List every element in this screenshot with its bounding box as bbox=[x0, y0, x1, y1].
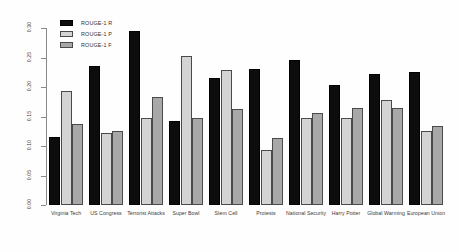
bar-r bbox=[369, 74, 380, 205]
bar-p bbox=[101, 133, 112, 205]
bar-group bbox=[129, 18, 163, 205]
y-axis-tick-label: 0.15 bbox=[26, 107, 32, 125]
x-axis-label: US Congress bbox=[90, 210, 121, 216]
bar-group bbox=[369, 18, 403, 205]
y-axis-tick-label: 0.20 bbox=[26, 77, 32, 95]
bar-p bbox=[341, 118, 352, 205]
x-axis-label: Super Bowl bbox=[172, 210, 199, 216]
bar-p bbox=[261, 150, 272, 205]
legend-swatch-f bbox=[60, 42, 73, 48]
bar-p bbox=[61, 91, 72, 205]
bar-r bbox=[329, 85, 340, 205]
y-axis-tick-label: 0.05 bbox=[26, 166, 32, 184]
x-axis-label: Virginia Tech bbox=[51, 210, 81, 216]
bar-f bbox=[192, 118, 203, 205]
bar-p bbox=[381, 100, 392, 205]
chart-legend: ROUGE-1 RROUGE-1 PROUGE-1 F bbox=[60, 18, 112, 51]
y-axis-tick bbox=[41, 205, 46, 206]
legend-item: ROUGE-1 P bbox=[60, 29, 112, 38]
rouge-1-bar-chart: 0.000.050.100.150.200.250.30 Virginia Te… bbox=[0, 0, 460, 252]
bar-p bbox=[301, 118, 312, 205]
bar-f bbox=[232, 109, 243, 205]
bar-f bbox=[352, 108, 363, 205]
legend-item: ROUGE-1 F bbox=[60, 40, 112, 49]
bar-f bbox=[152, 97, 163, 205]
bar-f bbox=[312, 113, 323, 205]
bar-group bbox=[169, 18, 203, 205]
bar-f bbox=[272, 138, 283, 205]
bar-group bbox=[329, 18, 363, 205]
x-axis-label: Protests bbox=[256, 210, 275, 216]
y-axis-tick-label: 0.30 bbox=[26, 18, 32, 36]
x-axis-label: European Union bbox=[407, 210, 445, 216]
bar-f bbox=[112, 131, 123, 205]
bar-f bbox=[392, 108, 403, 205]
bar-r bbox=[89, 66, 100, 205]
bar-r bbox=[49, 137, 60, 205]
x-axis-label: National Security bbox=[286, 210, 326, 216]
bar-group bbox=[289, 18, 323, 205]
bar-p bbox=[221, 70, 232, 205]
legend-swatch-p bbox=[60, 31, 73, 37]
bar-group bbox=[249, 18, 283, 205]
bar-r bbox=[209, 78, 220, 205]
bar-p bbox=[421, 131, 432, 205]
legend-item: ROUGE-1 R bbox=[60, 18, 112, 27]
bar-r bbox=[169, 121, 180, 205]
x-axis-label: Stem Cell bbox=[215, 210, 238, 216]
legend-label: ROUGE-1 F bbox=[81, 42, 112, 48]
y-axis-tick-label: 0.00 bbox=[26, 195, 32, 213]
bar-r bbox=[249, 69, 260, 205]
y-axis-tick-label: 0.25 bbox=[26, 48, 32, 66]
bar-p bbox=[181, 56, 192, 205]
bar-group bbox=[209, 18, 243, 205]
bar-r bbox=[409, 72, 420, 205]
bar-r bbox=[129, 31, 140, 205]
bar-f bbox=[432, 126, 443, 205]
bar-group bbox=[409, 18, 443, 205]
legend-label: ROUGE-1 R bbox=[81, 20, 112, 26]
x-axis-label: Harry Potter bbox=[332, 210, 361, 216]
x-axis-label: Global Warming bbox=[367, 210, 405, 216]
legend-swatch-r bbox=[60, 20, 73, 26]
bar-r bbox=[289, 60, 300, 205]
bar-f bbox=[72, 124, 83, 205]
legend-label: ROUGE-1 P bbox=[81, 31, 112, 37]
bar-p bbox=[141, 118, 152, 205]
y-axis-tick-label: 0.10 bbox=[26, 136, 32, 154]
x-axis-label: Terrorist Attacks bbox=[127, 210, 165, 216]
